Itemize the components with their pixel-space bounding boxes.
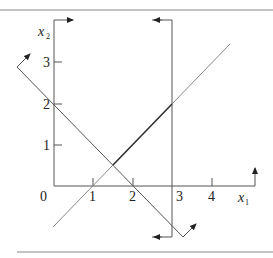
y-tick-label-2: 2	[43, 97, 50, 112]
x2-axis-label: x	[37, 24, 45, 39]
origin-label: 0	[40, 189, 47, 204]
x2-axis-label-sub: 2	[46, 32, 50, 41]
x1-axis-label: x	[237, 190, 245, 205]
x-tick-label-3: 3	[176, 189, 183, 204]
x2-axis	[54, 20, 73, 186]
y-tick-label-1: 1	[43, 138, 50, 153]
highlighted-edge	[113, 104, 172, 165]
x-tick-label-1: 1	[89, 189, 96, 204]
x-tick-label-4: 4	[208, 189, 215, 204]
constraint-x1-le-3	[152, 20, 172, 237]
lp-diagram: x 2 x 1 0 1 2 3 4 1 2 3	[0, 0, 273, 258]
x-tick-label-2: 2	[129, 189, 136, 204]
x1-axis-label-sub: 1	[245, 198, 249, 207]
x1-axis	[54, 168, 255, 186]
y-tick-label-3: 3	[43, 55, 50, 70]
